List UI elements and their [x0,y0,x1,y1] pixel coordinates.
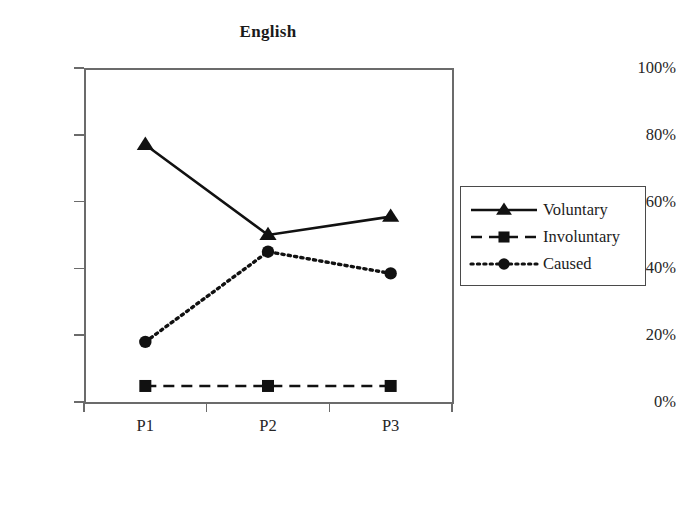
series-line [145,252,390,342]
legend-label: Caused [543,256,592,273]
chart-legend: VoluntaryInvoluntaryCaused [460,186,646,286]
series-voluntary [137,137,400,240]
square-marker [498,231,509,242]
series-involuntary [139,380,396,392]
legend-sample-triangle-icon [469,199,539,221]
series-line [145,145,390,235]
circle-marker [139,336,151,348]
legend-label: Voluntary [543,202,608,219]
square-marker [139,380,151,392]
square-marker [262,380,274,392]
triangle-marker [382,208,399,221]
circle-marker [262,246,274,258]
legend-label: Involuntary [543,229,620,246]
circle-marker [384,267,396,279]
circle-marker [498,258,509,269]
legend-sample-square-icon [469,226,539,248]
triangle-marker [137,137,154,150]
legend-item-voluntary[interactable]: Voluntary [461,197,645,223]
series-caused [139,246,397,349]
triangle-marker [496,202,512,214]
legend-item-caused[interactable]: Caused [461,251,645,277]
chart-figure: English 0%20%40%60%80%100% P1P2P3 Volunt… [0,0,676,509]
square-marker [385,380,397,392]
legend-sample-circle-icon [469,253,539,275]
legend-item-involuntary[interactable]: Involuntary [461,224,645,250]
